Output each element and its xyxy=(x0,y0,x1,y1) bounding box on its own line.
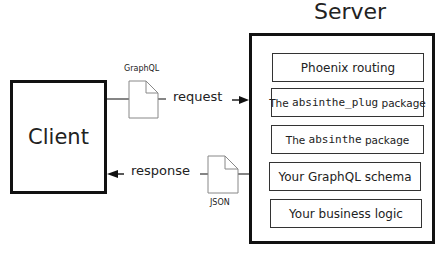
layer-graphql-schema: Your GraphQL schema xyxy=(269,162,421,191)
client-title: Client xyxy=(28,125,89,149)
layer-text: Your business logic xyxy=(289,207,403,221)
server-title: Server xyxy=(300,0,400,24)
layer-absinthe-plug: The absinthe_plug package xyxy=(271,88,424,117)
layer-absinthe: The absinthe package xyxy=(271,125,424,154)
request-arrowhead-icon xyxy=(239,96,249,104)
layer-text-code: absinthe_plug xyxy=(292,96,378,109)
response-arrowhead-icon xyxy=(107,170,118,178)
request-label: request xyxy=(173,89,222,104)
graphql-document-icon xyxy=(129,81,158,118)
server-box: Phoenix routing The absinthe_plug packag… xyxy=(249,33,435,244)
response-label: response xyxy=(131,163,190,178)
json-document-label: JSON xyxy=(210,198,230,207)
layer-text: Your GraphQL schema xyxy=(278,170,411,184)
layer-text: Phoenix routing xyxy=(301,61,395,75)
layer-phoenix-routing: Phoenix routing xyxy=(272,53,424,82)
graphql-document-label: GraphQL xyxy=(124,64,159,73)
layer-text-prefix: The xyxy=(286,134,309,146)
client-box: Client xyxy=(10,80,107,194)
layer-text-prefix: The xyxy=(269,97,292,109)
layer-text-suffix: package xyxy=(378,97,426,109)
layer-text-code: absinthe xyxy=(309,133,362,146)
layer-text-suffix: package xyxy=(362,134,410,146)
json-document-icon xyxy=(208,156,238,193)
layer-business-logic: Your business logic xyxy=(270,199,422,228)
